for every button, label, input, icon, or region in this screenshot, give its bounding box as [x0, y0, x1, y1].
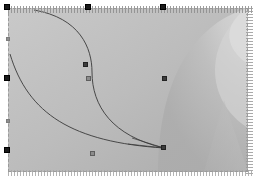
node-curve-mid[interactable]: [86, 76, 91, 81]
handle-middle-left[interactable]: [4, 75, 10, 81]
handle-edge-left-lower[interactable]: [6, 119, 10, 123]
handle-top-center[interactable]: [85, 4, 91, 10]
node-curve-right[interactable]: [162, 76, 167, 81]
handle-edge-left-upper[interactable]: [6, 37, 10, 41]
node-curve-bottom[interactable]: [90, 151, 95, 156]
handle-top-right[interactable]: [160, 4, 166, 10]
artboard[interactable]: [8, 8, 248, 172]
editor-canvas-window: [0, 0, 264, 181]
artwork-svg: [8, 8, 248, 172]
handle-top-left[interactable]: [4, 4, 10, 10]
node-inflection[interactable]: [83, 62, 88, 67]
node-anchor-end[interactable]: [161, 145, 166, 150]
handle-bottom-left[interactable]: [4, 147, 10, 153]
